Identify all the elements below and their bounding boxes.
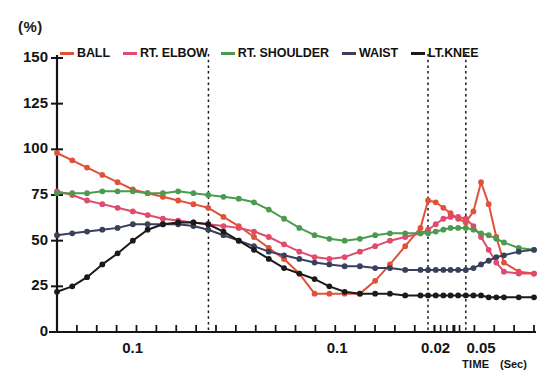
data-point	[425, 198, 431, 204]
data-point	[266, 207, 272, 213]
data-point	[130, 188, 136, 194]
data-point	[531, 294, 537, 300]
data-point	[312, 291, 318, 297]
series-line-rt-elbow	[57, 191, 534, 273]
data-point	[221, 214, 227, 220]
data-point	[236, 196, 242, 202]
data-point	[402, 267, 408, 273]
data-point	[281, 216, 287, 222]
data-point	[266, 256, 272, 262]
data-point	[296, 256, 302, 262]
series-line-waist	[57, 224, 534, 270]
data-point	[516, 271, 522, 277]
data-point	[387, 291, 393, 297]
data-point	[130, 238, 136, 244]
data-point	[266, 234, 272, 240]
x-axis-title: TIME	[462, 358, 489, 370]
data-point	[357, 291, 363, 297]
data-point	[372, 278, 378, 284]
data-point	[372, 291, 378, 297]
y-tick-label: 100	[6, 139, 48, 156]
y-tick-label: 125	[6, 94, 48, 111]
data-point	[175, 220, 181, 226]
data-point	[516, 294, 522, 300]
data-point	[402, 243, 408, 249]
data-point	[433, 199, 439, 205]
data-point	[145, 212, 151, 218]
data-point	[54, 289, 60, 295]
data-point	[440, 205, 446, 211]
series-line-lt-knee	[57, 222, 534, 297]
x-tick-label: 0.05	[454, 339, 508, 356]
data-point	[501, 294, 507, 300]
data-point	[471, 265, 477, 271]
data-point	[418, 293, 424, 299]
data-point	[312, 260, 318, 266]
data-point	[115, 205, 121, 211]
data-point	[54, 232, 60, 238]
data-point	[160, 221, 166, 227]
data-point	[115, 251, 121, 257]
data-point	[145, 221, 151, 227]
data-point	[418, 230, 424, 236]
data-point	[84, 229, 90, 235]
data-point	[486, 232, 492, 238]
data-point	[425, 230, 431, 236]
data-point	[326, 262, 332, 268]
data-point	[296, 271, 302, 277]
data-point	[463, 293, 469, 299]
data-point	[84, 165, 90, 171]
data-point	[191, 220, 197, 226]
data-point	[130, 221, 136, 227]
data-point	[418, 225, 424, 231]
data-point	[221, 229, 227, 235]
y-tick-label: 75	[6, 185, 48, 202]
data-point	[463, 216, 469, 222]
data-point	[342, 254, 348, 260]
data-point	[281, 252, 287, 258]
data-point	[493, 254, 499, 260]
data-point	[402, 293, 408, 299]
data-point	[486, 294, 492, 300]
data-point	[486, 247, 492, 253]
data-point	[478, 262, 484, 268]
data-point	[145, 227, 151, 233]
data-point	[326, 256, 332, 262]
data-point	[115, 179, 121, 185]
data-point	[463, 267, 469, 273]
data-point	[191, 190, 197, 196]
data-point	[99, 201, 105, 207]
data-point	[54, 190, 60, 196]
data-point	[145, 190, 151, 196]
data-point	[372, 265, 378, 271]
y-tick-label: 150	[6, 48, 48, 65]
data-point	[99, 262, 105, 268]
data-point	[221, 223, 227, 229]
data-point	[440, 216, 446, 222]
data-point	[357, 249, 363, 255]
data-point	[433, 229, 439, 235]
data-point	[266, 249, 272, 255]
data-point	[84, 198, 90, 204]
data-point	[160, 190, 166, 196]
data-point	[54, 150, 60, 156]
data-point	[357, 236, 363, 242]
data-point	[296, 249, 302, 255]
y-tick-label: 50	[6, 231, 48, 248]
data-point	[84, 274, 90, 280]
data-point	[296, 225, 302, 231]
data-point	[471, 209, 477, 215]
data-point	[342, 238, 348, 244]
data-point	[387, 230, 393, 236]
data-point	[236, 238, 242, 244]
data-point	[326, 291, 332, 297]
data-point	[84, 190, 90, 196]
data-point	[455, 267, 461, 273]
data-point	[115, 225, 121, 231]
data-point	[440, 227, 446, 233]
data-point	[455, 214, 461, 220]
data-point	[99, 227, 105, 233]
data-point	[516, 249, 522, 255]
data-point	[425, 293, 431, 299]
x-axis-unit: (Sec)	[500, 358, 527, 370]
